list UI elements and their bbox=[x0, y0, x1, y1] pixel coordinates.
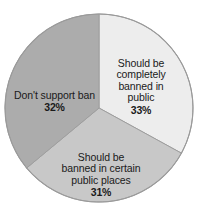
pie-value-certain-places: 31% bbox=[46, 186, 156, 198]
pie-value-no-support: 32% bbox=[8, 101, 101, 113]
pie-label-no-support: Don't support ban 32% bbox=[8, 78, 101, 125]
pie-label-certain-places: Should be banned in certain public place… bbox=[46, 140, 156, 210]
pie-label-text-certain-places: Should be banned in certain public place… bbox=[62, 151, 141, 186]
pie-value-completely-banned: 33% bbox=[104, 104, 178, 116]
pie-chart: Should be completely banned in public 33… bbox=[0, 0, 199, 217]
pie-label-text-completely-banned: Should be completely banned in public bbox=[116, 57, 165, 104]
pie-label-completely-banned: Should be completely banned in public 33… bbox=[104, 46, 178, 127]
pie-label-text-no-support: Don't support ban bbox=[14, 89, 95, 101]
